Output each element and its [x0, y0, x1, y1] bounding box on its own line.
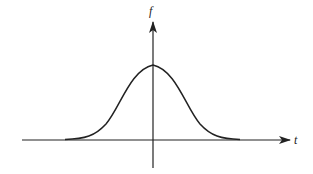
bell-curve-diagram: f t	[0, 0, 313, 174]
t-axis-label: t	[294, 133, 298, 147]
f-axis-label: f	[149, 4, 154, 18]
